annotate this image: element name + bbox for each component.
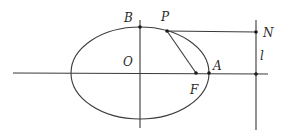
- point-l-intersection: [254, 72, 258, 76]
- label-p: P: [160, 10, 170, 24]
- segment-pn: [167, 31, 256, 32]
- label-n: N: [262, 26, 274, 40]
- ellipse-diagram: B P N O A F l: [0, 0, 288, 135]
- point-a: [207, 71, 211, 75]
- label-o: O: [123, 55, 133, 69]
- diagram-svg: B P N O A F l: [0, 0, 288, 135]
- point-f: [194, 71, 198, 75]
- label-a: A: [212, 59, 222, 73]
- point-n: [254, 30, 258, 34]
- label-l: l: [260, 49, 264, 63]
- segment-pf: [167, 31, 196, 73]
- label-b: B: [123, 11, 133, 25]
- label-f: F: [189, 83, 199, 97]
- point-b: [138, 25, 142, 29]
- point-p: [165, 29, 169, 33]
